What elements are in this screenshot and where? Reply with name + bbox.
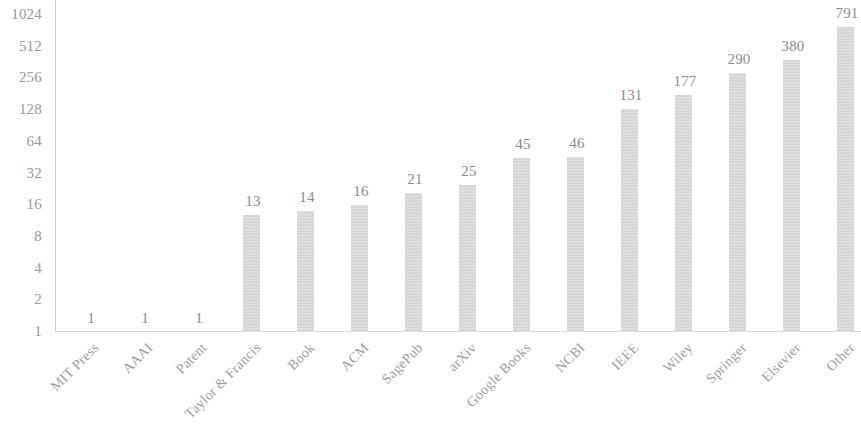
bar-group[interactable]: 21 [388,1,442,332]
bar-value-label: 380 [766,39,820,54]
x-tick: Patent [172,338,226,339]
bar-group[interactable]: 791 [820,1,861,332]
x-tick: NCBI [550,338,604,339]
x-tick-label: Elsevier [759,340,804,385]
x-tick: Google Books [496,338,550,339]
x-tick-label: ACM [338,340,373,375]
bar-value-label: 13 [226,194,280,209]
x-tick-label: IEEE [609,340,643,374]
bar-chart: 12481632641282565121024 1111314162125454… [0,0,861,441]
x-tick-label: Patent [173,340,210,377]
x-tick-label: Wiley [660,340,696,376]
x-tick: Wiley [658,338,712,339]
bar-group[interactable]: 45 [496,1,550,332]
bar[interactable] [513,158,530,332]
y-tick-label: 512 [19,39,42,54]
bar[interactable] [351,205,368,332]
y-tick-label: 2 [34,292,42,307]
x-tick-label: Springer [703,340,750,387]
bar-value-label: 21 [388,172,442,187]
y-tick-label: 256 [19,70,42,85]
bar-value-label: 177 [658,74,712,89]
x-axis: MIT PressAAAIPatentTaylor & FrancisBookA… [46,332,861,441]
bar-group[interactable]: 1 [172,1,226,332]
bar[interactable] [297,211,314,332]
bar[interactable] [675,95,692,332]
bar-value-label: 46 [550,136,604,151]
bar[interactable] [405,193,422,332]
bar-group[interactable]: 16 [334,1,388,332]
x-tick-label: MIT Press [48,340,103,395]
y-tick-label: 1 [34,324,42,339]
x-tick-label: SagePub [379,340,426,387]
plot-area: 11113141621254546131177290380791 [46,0,861,332]
x-tick-label: AAAI [119,340,156,377]
y-tick-label: 8 [34,229,42,244]
x-tick: IEEE [604,338,658,339]
bar-value-label: 16 [334,184,388,199]
bar-value-label: 25 [442,164,496,179]
bar-value-label: 1 [172,311,226,326]
y-tick-label: 4 [34,261,42,276]
bar-group[interactable]: 380 [766,1,820,332]
x-tick: SagePub [388,338,442,339]
x-tick-label: NCBI [552,340,588,376]
x-tick: Book [280,338,334,339]
bar[interactable] [459,185,476,332]
bar-group[interactable]: 131 [604,1,658,332]
bar[interactable] [567,157,584,332]
x-tick: Elsevier [766,338,820,339]
y-tick-label: 1024 [11,7,42,22]
x-tick: Springer [712,338,766,339]
x-tick: MIT Press [64,338,118,339]
x-tick: Taylor & Francis [226,338,280,339]
bar-group[interactable]: 25 [442,1,496,332]
bar[interactable] [837,27,854,332]
bar-group[interactable]: 1 [118,1,172,332]
bar[interactable] [243,215,260,332]
bar-value-label: 290 [712,52,766,67]
x-tick: ACM [334,338,388,339]
bar[interactable] [783,60,800,332]
bar[interactable] [729,73,746,332]
x-tick: AAAI [118,338,172,339]
bar-group[interactable]: 177 [658,1,712,332]
y-tick-label: 64 [27,134,42,149]
y-tick-label: 128 [19,102,42,117]
bar-value-label: 131 [604,88,658,103]
bar-group[interactable]: 290 [712,1,766,332]
x-tick: arXiv [442,338,496,339]
y-tick-label: 16 [27,197,42,212]
bar-value-label: 791 [820,6,861,21]
bar[interactable] [621,109,638,332]
x-tick-label: arXiv [445,340,480,375]
bar-group[interactable]: 1 [64,1,118,332]
x-tick-label: Book [285,340,319,374]
bar-group[interactable]: 13 [226,1,280,332]
x-tick: Other [820,338,861,339]
y-axis: 12481632641282565121024 [0,0,46,340]
y-axis-line [55,0,56,331]
bar-value-label: 1 [64,311,118,326]
bar-group[interactable]: 46 [550,1,604,332]
bar-value-label: 1 [118,311,172,326]
bar-value-label: 45 [496,137,550,152]
x-tick-label: Other [823,340,858,375]
y-tick-label: 32 [27,166,42,181]
bar-value-label: 14 [280,190,334,205]
bar-group[interactable]: 14 [280,1,334,332]
